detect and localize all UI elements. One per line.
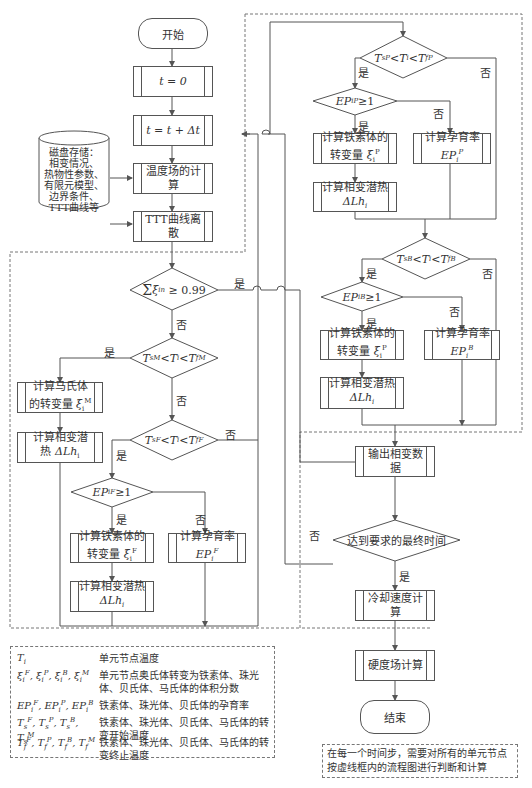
hardness-box: 硬度场计算 xyxy=(355,650,435,681)
temp-field-label: 温度场的计算 xyxy=(142,165,204,193)
calc-latent-p-line2: ΔLhi xyxy=(343,195,368,213)
calc-martensite-line1: 计算马氏体 xyxy=(33,380,88,394)
calc-incub-f-line1: 计算孕育率 xyxy=(180,530,235,544)
yes-label-ep-b: 是 xyxy=(366,315,377,331)
calc-ferrite-p-box: 计算铁素体的转变量 ξiP xyxy=(313,133,397,164)
legend-desc: 单元节点奥氏体转变为铁素体、珠光体、贝氏体、马氏体的体积分数 xyxy=(99,669,270,695)
dashed-region-note: 在每一个时间步，需要对所有的单元节点按虚线框内的流程图进行判断和计算 xyxy=(322,744,518,778)
no-label-ep-p: 否 xyxy=(433,105,444,121)
calc-ferrite-b-box: 计算铁素体的转变量 ξiP xyxy=(320,330,404,360)
t-init-box: t = 0 xyxy=(133,66,213,97)
calc-incub-f-box: 计算孕育率EPiF xyxy=(168,533,246,563)
start-terminal: 开始 xyxy=(138,18,208,49)
final-time-check-label: 达到要求的最终时间 xyxy=(333,532,460,548)
ttt-discrete-label: TTT曲线离散 xyxy=(142,213,204,241)
calc-martensite-box: 计算马氏体的转变量 ξiM xyxy=(17,382,103,413)
legend-row: TfF, TfP, TfB, TfM铁素体、珠光体、贝氏体、马氏体的转变终止温度 xyxy=(17,736,270,762)
start-label: 开始 xyxy=(162,26,184,42)
legend-symbol: TfF, TfP, TfB, TfM xyxy=(17,736,99,762)
yes-label-ep-f: 是 xyxy=(116,511,127,527)
legend-desc: 单元节点温度 xyxy=(99,652,270,666)
calc-incub-b-box: 计算孕育率EPiB xyxy=(424,330,500,360)
calc-incub-b-line1: 计算孕育率 xyxy=(435,327,490,341)
yes-label-pearlite: 是 xyxy=(358,64,369,80)
legend-row: EPiF, EPiP, EPiB铁素体、珠光体、贝氏体的孕育率 xyxy=(17,699,270,714)
calc-latent-m-line2: 热 ΔLhi xyxy=(40,445,79,463)
no-label-martensite: 否 xyxy=(176,392,187,408)
ttt-discrete-box: TTT曲线离散 xyxy=(133,211,213,242)
calc-ferrite-f-line2: 转变量 ξiF xyxy=(87,544,137,566)
no-label-ferrite: 否 xyxy=(225,426,236,442)
end-terminal: 结束 xyxy=(360,700,430,734)
no-label-bainite: 否 xyxy=(482,265,493,281)
martensite-check-label: TsM<Ti<TfM xyxy=(130,350,218,366)
disk-storage-cylinder: 磁盘存储： 相变情况、 热物性参数、 有限元模型、 边界条件、 TTT曲线等 xyxy=(38,130,110,208)
calc-latent-f-line2: ΔLhi xyxy=(100,594,125,612)
calc-latent-b-line2: ΔLhi xyxy=(350,391,375,409)
calc-latent-b-line1: 计算相变潜热 xyxy=(329,377,395,391)
yes-label-final-time: 是 xyxy=(399,568,410,584)
calc-incub-p-line2: EPiP xyxy=(441,145,463,167)
calc-ferrite-b-line1: 计算铁素体的 xyxy=(329,327,395,341)
legend-desc: 铁素体、珠光体、贝氏体、马氏体的转变终止温度 xyxy=(99,736,270,762)
calc-incub-p-box: 计算孕育率EPiP xyxy=(413,133,491,164)
calc-ferrite-f-box: 计算铁素体的转变量 ξiF xyxy=(70,533,154,563)
ep-b-check-label: EPiB≥1 xyxy=(321,289,403,305)
calc-ferrite-p-line1: 计算铁素体的 xyxy=(322,131,388,145)
disk-storage-text: 磁盘存储： 相变情况、 热物性参数、 有限元模型、 边界条件、 TTT曲线等 xyxy=(38,147,110,213)
calc-latent-f-box: 计算相变潜热ΔLhi xyxy=(70,581,154,612)
calc-latent-m-line1: 计算相变潜 xyxy=(33,431,88,445)
calc-incub-f-line2: EPiF xyxy=(196,544,219,566)
bainite-check-label: TsB<Ti<TfB xyxy=(382,251,470,267)
ferrite-check-label: TsF<Ti<TfF xyxy=(130,432,218,448)
no-label-ep-f: 否 xyxy=(195,511,206,527)
legend-symbol: EPiF, EPiP, EPiB xyxy=(17,699,99,714)
yes-label-ferrite: 是 xyxy=(116,447,127,463)
calc-latent-p-box: 计算相变潜热ΔLhi xyxy=(313,182,397,212)
end-label: 结束 xyxy=(384,709,406,725)
t-init-label: t = 0 xyxy=(159,75,187,89)
symbol-legend: Ti单元节点温度 ξiF, ξiP, ξiB, ξiM单元节点奥氏体转变为铁素体… xyxy=(10,646,275,758)
yes-label-bainite: 是 xyxy=(366,265,377,281)
calc-latent-f-line1: 计算相变潜热 xyxy=(79,580,145,594)
no-label-pearlite: 否 xyxy=(480,64,491,80)
calc-ferrite-p-line2: 转变量 ξiP xyxy=(330,145,380,167)
yes-label-ep-p: 是 xyxy=(358,118,369,134)
legend-desc: 铁素体、珠光体、贝氏体的孕育率 xyxy=(99,699,270,714)
calc-ferrite-b-line2: 转变量 ξiP xyxy=(337,341,387,363)
output-phase-box: 输出相变数据 xyxy=(355,446,435,477)
no-label-ep-b: 否 xyxy=(449,303,460,319)
calc-incub-b-line2: EPiB xyxy=(451,341,474,363)
ep-f-check-label: EPiF≥1 xyxy=(71,484,153,500)
no-label-final-time: 否 xyxy=(309,527,320,543)
t-step-label: t = t + Δt xyxy=(146,124,200,138)
temp-field-box: 温度场的计算 xyxy=(133,163,213,194)
legend-symbol: Ti xyxy=(17,652,99,666)
calc-martensite-line2: 的转变量 ξiM xyxy=(29,394,92,416)
t-step-box: t = t + Δt xyxy=(133,115,213,146)
legend-symbol: ξiF, ξiP, ξiB, ξiM xyxy=(17,669,99,695)
ep-p-check-label: EPiP≥1 xyxy=(313,93,397,109)
calc-latent-m-box: 计算相变潜热 ΔLhi xyxy=(17,432,103,463)
output-phase-label: 输出相变数据 xyxy=(364,448,426,476)
yes-label-sum: 是 xyxy=(234,275,245,291)
cooling-rate-box: 冷却速度计算 xyxy=(355,590,435,621)
no-label-sum: 否 xyxy=(176,316,187,332)
sum-check-label: Σξin ≥ 0.99 xyxy=(130,278,218,302)
legend-row: ξiF, ξiP, ξiB, ξiM单元节点奥氏体转变为铁素体、珠光体、贝氏体、… xyxy=(17,669,270,695)
calc-ferrite-f-line1: 计算铁素体的 xyxy=(79,530,145,544)
yes-label-martensite: 是 xyxy=(104,344,115,360)
calc-latent-b-box: 计算相变潜热ΔLhi xyxy=(320,377,404,409)
calc-latent-p-line1: 计算相变潜热 xyxy=(322,181,388,195)
calc-incub-p-line1: 计算孕育率 xyxy=(425,131,480,145)
hardness-label: 硬度场计算 xyxy=(368,659,423,673)
cooling-rate-label: 冷却速度计算 xyxy=(364,592,426,620)
legend-row: Ti单元节点温度 xyxy=(17,652,270,666)
pearlite-check-label: TsP<Ti<TfP xyxy=(360,50,447,66)
